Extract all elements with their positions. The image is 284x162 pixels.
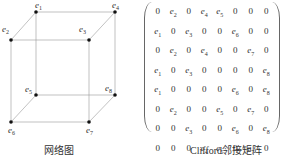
matrix-cell-r1-c4: e4 xyxy=(197,4,213,24)
cube-network-graph: e1e2e3e4e5e6e7e8 xyxy=(0,0,142,140)
matrix-cell-r5-c1: e1 xyxy=(150,82,166,102)
matrix-cell-r3-c3: 0 xyxy=(181,43,197,63)
graph-edge xyxy=(89,12,115,40)
matrix-cell-r1-c7: 0 xyxy=(243,4,259,24)
matrix-cell-r2-c7: 0 xyxy=(243,24,259,44)
node-label-e4: e4 xyxy=(112,0,119,11)
matrix-cell-r2-c2: 0 xyxy=(166,24,182,44)
graph-node-e1 xyxy=(34,10,38,14)
node-label-e1: e1 xyxy=(35,0,42,11)
matrix-cell-r6-c4: 0 xyxy=(197,102,213,122)
node-label-e7: e7 xyxy=(86,125,93,136)
matrix-cell-r6-c1: 0 xyxy=(150,102,166,122)
matrix-cell-r5-c4: 0 xyxy=(197,82,213,102)
matrix-cell-r3-c4: e4 xyxy=(197,43,213,63)
matrix-cell-r2-c5: 0 xyxy=(212,24,228,44)
matrix-cell-r2-c6: e6 xyxy=(228,24,244,44)
matrix-cell-r6-c3: 0 xyxy=(181,102,197,122)
matrix-cell-r7-c5: 0 xyxy=(212,121,228,141)
matrix-cell-r4-c7: 0 xyxy=(243,63,259,83)
matrix-cell-r4-c3: e3 xyxy=(181,63,197,83)
matrix-cell-r3-c5: 0 xyxy=(212,43,228,63)
matrix-cell-r4-c4: 0 xyxy=(197,63,213,83)
graph-edge xyxy=(89,95,115,122)
clifford-adjacency-matrix: 0e20e4e5000e10e300e6000e20e400e70e10e300… xyxy=(144,2,280,132)
matrix-cell-r7-c6: e6 xyxy=(228,121,244,141)
matrix-caption: Clifford邻接矩阵 xyxy=(190,142,262,157)
matrix-cell-r1-c6: 0 xyxy=(228,4,244,24)
matrix-cell-r6-c7: e7 xyxy=(243,102,259,122)
graph-node-e6 xyxy=(9,120,13,124)
matrix-cell-r7-c1: 0 xyxy=(150,121,166,141)
matrix-cell-r4-c1: e1 xyxy=(150,63,166,83)
graph-node-e5 xyxy=(34,93,38,97)
node-label-e6: e6 xyxy=(8,125,15,136)
matrix-cell-r7-c3: e3 xyxy=(181,121,197,141)
graph-node-e7 xyxy=(87,120,91,124)
graph-node-e8 xyxy=(113,93,117,97)
node-label-e2: e2 xyxy=(2,24,9,35)
matrix-cell-r7-c7: 0 xyxy=(243,121,259,141)
matrix-cell-r5-c5: 0 xyxy=(212,82,228,102)
matrix-cell-r5-c7: 0 xyxy=(243,82,259,102)
matrix-cell-r1-c1: 0 xyxy=(150,4,166,24)
matrix-cell-r5-c3: 0 xyxy=(181,82,197,102)
matrix-cell-r2-c4: 0 xyxy=(197,24,213,44)
matrix-grid: 0e20e4e5000e10e300e6000e20e400e70e10e300… xyxy=(150,4,274,130)
matrix-cell-r2-c3: e3 xyxy=(181,24,197,44)
matrix-cell-r6-c2: e2 xyxy=(166,102,182,122)
matrix-cell-r8-c1: 0 xyxy=(150,141,166,161)
matrix-cell-r1-c5: e5 xyxy=(212,4,228,24)
node-label-e8: e8 xyxy=(105,83,112,94)
matrix-cell-r3-c7: e7 xyxy=(243,43,259,63)
matrix-cell-r4-c5: 0 xyxy=(212,63,228,83)
matrix-cell-r7-c4: 0 xyxy=(197,121,213,141)
matrix-cell-r3-c6: 0 xyxy=(228,43,244,63)
graph-nodes: e1e2e3e4e5e6e7e8 xyxy=(2,0,119,136)
matrix-cell-r1-c2: e2 xyxy=(166,4,182,24)
matrix-cell-r3-c2: e2 xyxy=(166,43,182,63)
matrix-cell-r4-c6: 0 xyxy=(228,63,244,83)
matrix-cell-r5-c6: e6 xyxy=(228,82,244,102)
graph-node-e3 xyxy=(87,38,91,42)
matrix-cell-r6-c5: e5 xyxy=(212,102,228,122)
network-graph-caption: 网络图 xyxy=(44,142,74,157)
matrix-cell-r1-c3: 0 xyxy=(181,4,197,24)
matrix-cell-r8-c2: 0 xyxy=(166,141,182,161)
matrix-cell-r2-c1: e1 xyxy=(150,24,166,44)
node-label-e3: e3 xyxy=(79,24,86,35)
matrix-cell-r4-c2: 0 xyxy=(166,63,182,83)
matrix-cell-r7-c2: 0 xyxy=(166,121,182,141)
graph-edge xyxy=(11,12,36,40)
graph-node-e2 xyxy=(9,38,13,42)
node-label-e5: e5 xyxy=(25,84,32,95)
graph-edges xyxy=(11,12,115,122)
graph-edge xyxy=(11,95,36,122)
right-parenthesis xyxy=(271,2,280,132)
matrix-cell-r6-c6: 0 xyxy=(228,102,244,122)
matrix-cell-r5-c2: 0 xyxy=(166,82,182,102)
matrix-cell-r3-c1: 0 xyxy=(150,43,166,63)
